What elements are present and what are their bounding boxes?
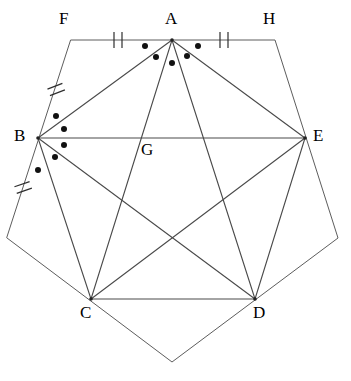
vertex-label-A: A: [165, 10, 177, 27]
segment-AB: [38, 40, 172, 138]
vertex-label-B: B: [14, 127, 25, 144]
segment-AE: [172, 40, 305, 138]
angle-dot-b3: [61, 142, 67, 148]
segment-BD: [38, 138, 255, 299]
vertex-dot-B: [36, 136, 40, 140]
angle-dot-b5: [35, 167, 41, 173]
angle-dot-a1: [142, 43, 148, 49]
vertex-dot-A: [170, 38, 174, 42]
vertex-label-C: C: [80, 304, 91, 321]
angle-dot-b4: [52, 154, 58, 160]
vertex-label-F: F: [59, 10, 68, 27]
vertex-dot-C: [89, 297, 93, 301]
segment-BC: [38, 138, 91, 299]
segment-DE: [255, 138, 305, 299]
geometry-figure: F A H B E G C D: [0, 0, 351, 381]
vertex-label-H: H: [263, 10, 275, 27]
outer-pentagon: [7, 40, 338, 362]
geometry-canvas: [0, 0, 351, 381]
vertex-dot-D: [253, 297, 257, 301]
angle-dot-a4: [184, 53, 190, 59]
tick-FB: [47, 83, 64, 95]
vertex-label-G: G: [141, 141, 153, 158]
angle-dot-b1: [53, 113, 59, 119]
angle-dot-a3: [169, 60, 175, 66]
angle-dot-a2: [153, 54, 159, 60]
vertex-label-D: D: [253, 304, 265, 321]
angle-dot-a5: [195, 43, 201, 49]
segment-CE: [91, 138, 305, 299]
angle-dot-b2: [61, 126, 67, 132]
segment-AD: [172, 40, 255, 299]
vertex-label-E: E: [313, 127, 323, 144]
segment-AC: [91, 40, 172, 299]
vertex-dot-E: [303, 136, 307, 140]
